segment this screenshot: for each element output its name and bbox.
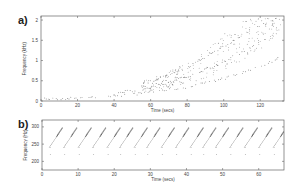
y-axis-label: Frequency (kHz): [22, 41, 27, 75]
x-tick-label: 60: [256, 172, 262, 177]
y-tick-label: 1: [35, 58, 38, 63]
x-tick-label: 100: [220, 103, 228, 108]
y-tick-label: 200: [31, 159, 39, 164]
plot-a: 02040608010012000.511.52Time (secs)Frequ…: [22, 16, 284, 113]
y-axis-label: Frequency (Hz): [23, 129, 28, 161]
x-tick-label: 40: [112, 103, 118, 108]
plot-b: 0102030405060200250300Time (secs)Frequen…: [23, 120, 284, 182]
x-tick-label: 80: [185, 103, 191, 108]
y-tick-label: 250: [31, 142, 39, 147]
x-tick-label: 0: [41, 172, 44, 177]
y-tick-label: 0: [35, 99, 38, 104]
x-axis-label: Time (secs): [151, 108, 175, 113]
plot-frame: [41, 16, 284, 101]
y-tick-label: 0.5: [32, 78, 39, 83]
x-tick-label: 120: [256, 103, 264, 108]
x-tick-label: 50: [220, 172, 226, 177]
y-tick-label: 1.5: [32, 38, 39, 43]
data-points: [49, 127, 284, 155]
y-tick-label: 2: [35, 18, 38, 23]
x-tick-label: 0: [40, 103, 43, 108]
x-tick-label: 20: [75, 103, 81, 108]
x-tick-label: 20: [112, 172, 118, 177]
plot-frame: [42, 120, 284, 170]
chart-canvas: 02040608010012000.511.52Time (secs)Frequ…: [0, 0, 301, 196]
x-tick-label: 40: [184, 172, 190, 177]
x-tick-label: 10: [76, 172, 82, 177]
x-axis-label: Time (secs): [151, 177, 175, 182]
y-tick-label: 300: [31, 124, 39, 129]
data-points: [44, 18, 281, 100]
